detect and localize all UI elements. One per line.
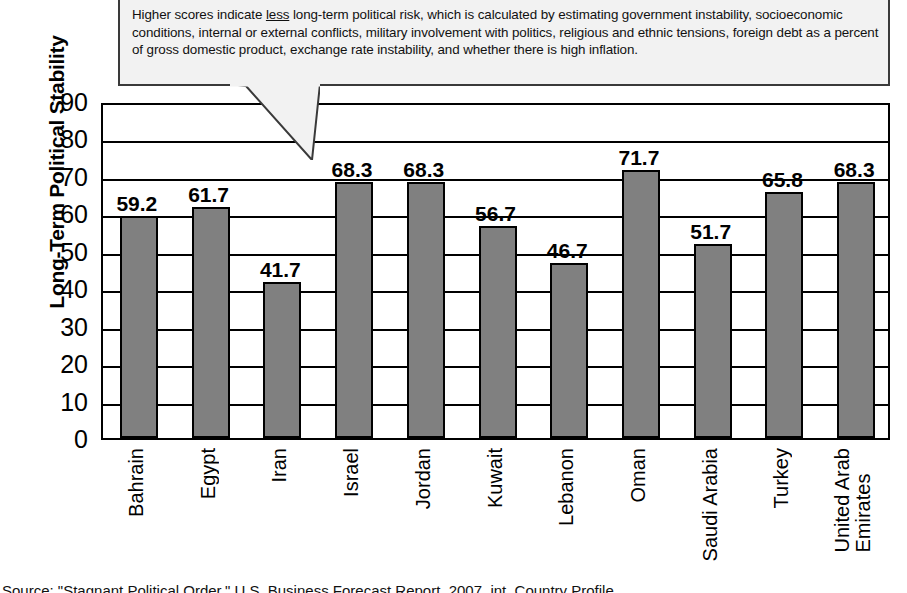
info-callout: Higher scores indicate less long-term po… [118,0,890,86]
bar [479,226,517,438]
source-note: Source: "Stagnant Political Order," U.S.… [2,582,902,593]
x-category-label: Iran [269,448,290,482]
chart-plot-area [101,103,890,440]
x-category-label: Bahrain [126,448,147,517]
y-tick-label: 50 [0,240,88,265]
x-category-label: Egypt [198,448,219,499]
callout-line-1a: Higher scores indicate [132,7,266,22]
y-tick-label: 70 [0,165,88,190]
bar [407,182,445,438]
y-tick-label: 20 [0,352,88,377]
x-category-label: Israel [341,448,362,497]
y-tick-label: 60 [0,202,88,227]
x-category-label: Jordan [413,448,434,509]
x-category-label: Saudi Arabia [700,448,721,561]
callout-line-4: whether there is high inflation. [463,42,638,57]
y-tick-label: 30 [0,315,88,340]
callout-tail-icon [230,84,320,160]
x-category-label: Turkey [771,448,792,508]
callout-text: Higher scores indicate less long-term po… [132,6,880,59]
y-tick-label: 40 [0,277,88,302]
callout-emphasis-less: less [266,7,289,22]
y-tick-label: 10 [0,390,88,415]
x-category-label: Oman [628,448,649,502]
y-tick-label: 90 [0,90,88,115]
bar [335,182,373,438]
bar [120,216,158,438]
bar [694,244,732,438]
x-category-label: United Arab Emirates [832,448,874,553]
bar [192,207,230,438]
bar [550,263,588,438]
bar [837,182,875,438]
x-category-label: Kuwait [485,448,506,508]
gridline [103,179,888,181]
y-axis-title: Long-Term Political Stability [45,7,69,337]
bar [765,192,803,438]
gridline [103,141,888,143]
callout-line-1b: long-term political risk, which is calcu… [289,7,691,22]
bar [622,170,660,438]
bar [263,282,301,438]
y-tick-label: 80 [0,127,88,152]
y-tick-label: 0 [0,427,88,452]
x-category-label: Lebanon [556,448,577,526]
